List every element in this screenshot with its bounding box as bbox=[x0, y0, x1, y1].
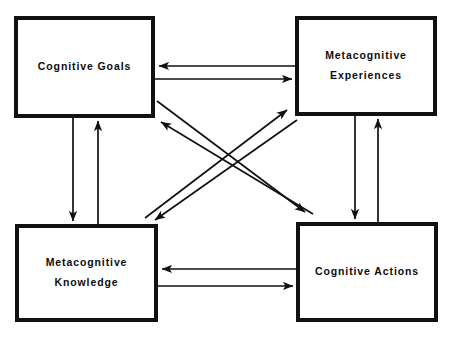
node-cognitive-actions[interactable]: Cognitive Actions bbox=[296, 222, 438, 322]
node-metacognitive-knowledge-line-1: Metacognitive bbox=[46, 253, 128, 273]
node-cognitive-actions-line-1: Cognitive Actions bbox=[315, 262, 419, 282]
node-metacognitive-knowledge-line-2: Knowledge bbox=[54, 273, 118, 293]
node-cognitive-goals[interactable]: Cognitive Goals bbox=[14, 16, 155, 118]
node-metacognitive-experiences[interactable]: Metacognitive Experiences bbox=[295, 16, 437, 116]
node-metacognitive-experiences-line-1: Metacognitive bbox=[325, 46, 407, 66]
diagram-canvas: Cognitive Goals Metacognitive Experience… bbox=[0, 0, 452, 338]
node-cognitive-goals-line-1: Cognitive Goals bbox=[38, 57, 131, 77]
node-metacognitive-knowledge[interactable]: Metacognitive Knowledge bbox=[15, 224, 158, 322]
edge-exp-to-know bbox=[155, 120, 297, 220]
node-metacognitive-experiences-line-2: Experiences bbox=[330, 66, 402, 86]
